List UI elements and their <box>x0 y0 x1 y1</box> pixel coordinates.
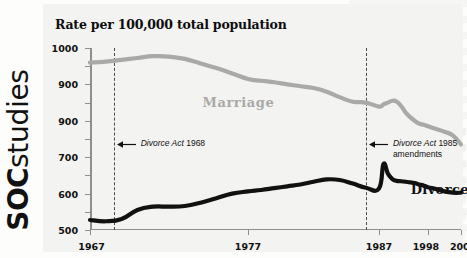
annotation-arrow-divorce-act-1968 <box>117 140 136 149</box>
chart-panel: Rate per 100,000 total population 010020… <box>43 4 463 252</box>
x-tick: 2006 <box>461 230 462 235</box>
annotation-arrow-divorce-act-1985 <box>369 140 388 149</box>
brand-suffix: studies <box>2 69 35 168</box>
annotation-year-label: 1968 <box>184 138 205 148</box>
x-tick: 1967 <box>90 230 91 235</box>
soc-studies-branding: SOCstudies <box>0 52 39 248</box>
chart-figure: SOCstudies Rate per 100,000 total popula… <box>0 0 467 258</box>
annotation-act-label: Divorce Act <box>393 138 436 148</box>
x-tick: 1998 <box>428 230 429 235</box>
x-tick: 1977 <box>248 230 249 235</box>
annotation-act-label: Divorce Act <box>141 138 184 148</box>
annotation-year-label: 1985 <box>436 138 457 148</box>
y-tick-label: 600 <box>58 188 78 199</box>
plot-area: 01002003004005006007009009001000 1967197… <box>90 48 461 230</box>
x-tick-label: 1977 <box>235 241 261 252</box>
brand-prefix: SOC <box>2 168 35 231</box>
annotation-divorce-act-1985: Divorce Act 1985amendments <box>393 138 457 159</box>
x-tick-label: 1967 <box>78 241 104 252</box>
y-tick-label: 900 <box>58 115 78 126</box>
y-tick-label: 1000 <box>52 43 78 54</box>
x-tick-label: 2006 <box>450 241 467 252</box>
divorce-line <box>90 163 461 221</box>
chart-title: Rate per 100,000 total population <box>55 17 287 32</box>
x-tick: 1987 <box>379 230 380 235</box>
y-tick-label: 500 <box>58 225 78 236</box>
marriage-line <box>90 56 461 144</box>
series-label-marriage: Marriage <box>202 95 274 110</box>
series-label-divorce: Divorce <box>411 182 467 197</box>
x-tick-label: 1998 <box>413 241 439 252</box>
x-tick-label: 1987 <box>366 241 392 252</box>
y-tick-label: 700 <box>58 152 78 163</box>
y-tick-label: 900 <box>58 79 78 90</box>
annotation-extra-label: amendments <box>393 149 457 160</box>
annotation-divorce-act-1968: Divorce Act 1968 <box>141 138 205 149</box>
